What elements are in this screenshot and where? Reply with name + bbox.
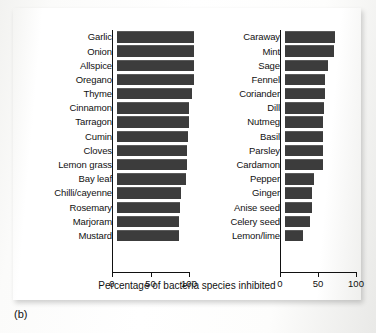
bar-row: Celery seed (196, 214, 356, 228)
figure-plate-inner: GarlicOnionAllspiceOreganoThymeCinnamonT… (13, 8, 361, 300)
y-axis-line-left (112, 30, 113, 272)
bar-category-label: Cumin (27, 132, 117, 142)
bar-row: Nutmeg (196, 115, 356, 129)
bar (285, 31, 335, 42)
bar (285, 173, 314, 184)
bar (285, 45, 334, 56)
bar-category-label: Anise seed (196, 203, 285, 213)
bar (285, 131, 323, 142)
bar-track (285, 73, 356, 87)
bar-row: Lemon grass (27, 158, 195, 172)
bar-category-label: Mint (196, 47, 285, 57)
bar-track (285, 87, 356, 101)
bar-row: Oregano (27, 73, 195, 87)
bar (285, 187, 312, 198)
x-axis-tick (318, 272, 319, 277)
bar (117, 187, 181, 198)
bar-track (117, 30, 195, 44)
bar-row: Anise seed (196, 200, 356, 214)
bar (117, 88, 192, 99)
bar (285, 159, 323, 170)
bar-row: Cloves (27, 144, 195, 158)
bar-row: Parsley (196, 144, 356, 158)
bar (117, 202, 180, 213)
bar (285, 74, 325, 85)
bar-row: Sage (196, 58, 356, 72)
bar-row: Thyme (27, 87, 195, 101)
bar-row: Onion (27, 44, 195, 58)
bar-category-label: Allspice (27, 61, 117, 71)
bar-category-label: Marjoram (27, 217, 117, 227)
bar-category-label: Oregano (27, 75, 117, 85)
bar-track (117, 172, 195, 186)
bar-row: Ginger (196, 186, 356, 200)
chart-panel-left: GarlicOnionAllspiceOreganoThymeCinnamonT… (27, 30, 195, 272)
bar (117, 216, 179, 227)
bar-row: Basil (196, 129, 356, 143)
bar (285, 116, 323, 127)
bar-category-label: Cinnamon (27, 103, 117, 113)
bar-category-label: Thyme (27, 89, 117, 99)
bar-track (117, 229, 195, 243)
bar-row: Marjoram (27, 214, 195, 228)
bar-row: Garlic (27, 30, 195, 44)
bar-track (285, 172, 356, 186)
figure-caption: (b) (14, 308, 27, 320)
bar-track (285, 158, 356, 172)
figure-container: GarlicOnionAllspiceOreganoThymeCinnamonT… (0, 0, 376, 333)
bar-category-label: Coriander (196, 89, 285, 99)
bar-category-label: Fennel (196, 75, 285, 85)
bar-track (117, 44, 195, 58)
bar-category-label: Nutmeg (196, 117, 285, 127)
bar-row: Fennel (196, 73, 356, 87)
bar-category-label: Bay leaf (27, 174, 117, 184)
bar-track (117, 186, 195, 200)
bar-category-label: Lemon grass (27, 160, 117, 170)
bar-row: Rosemary (27, 200, 195, 214)
bar (285, 145, 323, 156)
bar-category-label: Lemon/lime (196, 231, 285, 241)
bar-row: Dill (196, 101, 356, 115)
bar-track (117, 200, 195, 214)
bar (117, 131, 188, 142)
bar-track (285, 101, 356, 115)
x-axis-tick (189, 272, 190, 277)
bar (117, 230, 179, 241)
bar-rows-right: CarawayMintSageFennelCorianderDillNutmeg… (196, 30, 356, 243)
bar-track (285, 30, 356, 44)
bar-row: Coriander (196, 87, 356, 101)
bar-category-label: Cardamon (196, 160, 285, 170)
bar-track (285, 214, 356, 228)
chart-panel-right: CarawayMintSageFennelCorianderDillNutmeg… (196, 30, 356, 272)
bar (117, 31, 194, 42)
bar-category-label: Ginger (196, 188, 285, 198)
bar-track (285, 186, 356, 200)
bar-category-label: Celery seed (196, 217, 285, 227)
bar (285, 202, 312, 213)
bar (285, 60, 328, 71)
bar-track (285, 44, 356, 58)
bar-category-label: Cloves (27, 146, 117, 156)
bar-track (117, 158, 195, 172)
bar-row: Chilli/cayenne (27, 186, 195, 200)
x-axis-tick (151, 272, 152, 277)
bar-category-label: Caraway (196, 32, 285, 42)
bar (117, 45, 194, 56)
bar-track (117, 115, 195, 129)
bar-row: Mint (196, 44, 356, 58)
bar-category-label: Garlic (27, 32, 117, 42)
bar-track (117, 101, 195, 115)
bar-track (285, 58, 356, 72)
bar (117, 159, 187, 170)
bar-track (285, 144, 356, 158)
bar-category-label: Parsley (196, 146, 285, 156)
bar-track (285, 115, 356, 129)
bar-row: Allspice (27, 58, 195, 72)
bar-track (285, 129, 356, 143)
bar-track (117, 87, 195, 101)
bar (117, 173, 186, 184)
bar-category-label: Pepper (196, 174, 285, 184)
x-axis-tick (280, 272, 281, 277)
x-axis-tick (356, 272, 357, 277)
bar-category-label: Basil (196, 132, 285, 142)
